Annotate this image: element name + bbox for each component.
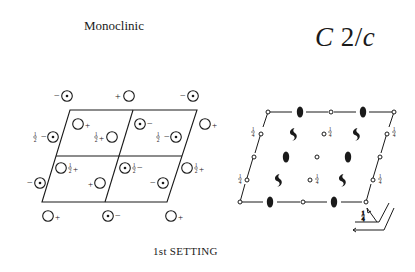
svg-text:−: − <box>150 177 156 188</box>
svg-text:+: + <box>178 212 183 222</box>
position-marker: − <box>103 210 121 221</box>
inversion-center-icon <box>392 110 396 114</box>
position-marker: + <box>182 162 204 174</box>
svg-text:−: − <box>137 162 143 173</box>
svg-text:−: − <box>147 118 153 129</box>
two-fold-axis-icon <box>297 107 303 118</box>
svg-text:+: + <box>88 179 93 189</box>
svg-text:+: + <box>85 120 90 130</box>
inversion-center-icon <box>329 110 333 114</box>
svg-text:−: − <box>54 90 60 101</box>
position-marker: + <box>200 119 217 130</box>
inversion-center-icon <box>252 155 256 159</box>
two-fold-screw-axis-icon <box>290 128 297 141</box>
position-marker: + <box>43 211 60 222</box>
cell-outline <box>42 110 197 202</box>
two-fold-screw-axis-icon <box>339 174 346 187</box>
position-marker: − <box>120 162 143 174</box>
inversion-center-icon <box>245 178 249 182</box>
svg-text:−: − <box>180 90 186 101</box>
svg-text:−: − <box>164 131 170 142</box>
inversion-center-icon <box>308 178 312 182</box>
svg-text:+: + <box>212 120 217 130</box>
svg-text:+: + <box>55 212 60 222</box>
inversion-center-icon <box>378 155 382 159</box>
inversion-center-icon <box>364 200 368 204</box>
position-marker: − <box>150 177 168 188</box>
two-fold-axis-icon <box>283 152 289 163</box>
svg-text:−: − <box>27 177 33 188</box>
svg-text:+: + <box>199 164 204 174</box>
inversion-center-icon <box>301 200 305 204</box>
diagrams-canvas: 12 14 − + − − + + − − + + − + − + − + − … <box>0 0 415 272</box>
position-marker: − <box>180 90 198 101</box>
two-fold-axis-icon <box>345 152 351 163</box>
inversion-center-icon <box>238 200 242 204</box>
inversion-center-icon <box>315 155 319 159</box>
position-marker: − <box>27 177 45 188</box>
inversion-center-icon <box>322 132 326 136</box>
two-fold-axis-icon <box>267 197 273 208</box>
glide-plane-symbol-icon <box>353 203 394 232</box>
svg-text:+: + <box>99 133 104 143</box>
two-fold-axis-icon <box>331 197 337 208</box>
inversion-center-icon <box>266 110 270 114</box>
position-marker: − <box>156 131 181 143</box>
two-fold-screw-axis-icon <box>275 174 282 187</box>
position-marker: + <box>115 91 134 102</box>
position-marker: + <box>166 211 183 222</box>
position-marker: + <box>56 162 78 174</box>
inversion-center-icon <box>385 132 389 136</box>
svg-text:−: − <box>41 131 47 142</box>
position-marker: − <box>54 90 72 101</box>
symmetry-elements-diagram <box>238 107 396 233</box>
position-marker: + <box>94 131 117 143</box>
inversion-center-icon <box>259 132 263 136</box>
position-marker: + <box>88 178 105 189</box>
two-fold-screw-axis-icon <box>353 128 360 141</box>
svg-text:+: + <box>115 91 121 102</box>
two-fold-axis-icon <box>360 107 366 118</box>
position-marker: + <box>73 119 90 130</box>
position-marker: − <box>33 131 58 143</box>
inversion-center-icon <box>371 178 375 182</box>
svg-text:−: − <box>115 210 121 221</box>
svg-text:+: + <box>73 164 78 174</box>
general-positions-diagram: − + − − + + − − + + − + − + − + − + <box>27 90 217 222</box>
position-marker: − <box>135 118 153 129</box>
